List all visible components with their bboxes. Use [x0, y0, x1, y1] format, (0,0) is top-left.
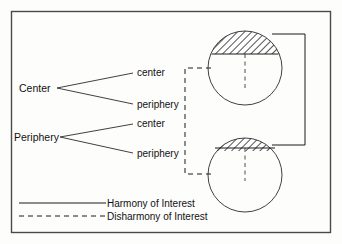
legend-label-disharmony: Disharmony of Interest: [107, 211, 208, 222]
part-label-periphery-center: center: [137, 118, 165, 129]
periphery-nation-circle: [206, 138, 284, 212]
diagram-canvas: Center Periphery center periphery center…: [0, 0, 342, 244]
part-label-center-periphery: periphery: [137, 99, 179, 110]
center-nation-circle: [206, 31, 284, 105]
figure-root: Center Periphery center periphery center…: [0, 0, 342, 244]
part-label-periphery-periphery: periphery: [137, 148, 179, 159]
disharmony-connector: [185, 68, 211, 174]
legend: Harmony of Interest Disharmony of Intere…: [19, 198, 208, 222]
actor-label-periphery: Periphery: [14, 131, 60, 143]
part-label-center-center: center: [137, 67, 165, 78]
legend-label-harmony: Harmony of Interest: [107, 198, 195, 209]
center-label-fan: [57, 73, 133, 104]
periphery-label-fan: [60, 124, 133, 153]
actor-label-center: Center: [19, 82, 51, 94]
